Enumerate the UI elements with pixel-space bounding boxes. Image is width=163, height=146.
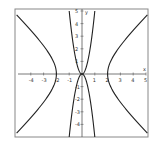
y-tick-label: -4 — [75, 121, 80, 127]
y-tick-label: 2 — [75, 46, 78, 52]
x-tick-label: -4 — [29, 77, 34, 83]
graph: -4-3-2-112345-4-3-2-112345 x y — [0, 0, 163, 146]
y-tick-label: -3 — [75, 109, 80, 115]
y-tick-label: 5 — [75, 8, 78, 14]
x-tick-label: -1 — [67, 77, 72, 83]
y-axis-label: y — [85, 9, 88, 16]
plot-frame — [15, 9, 148, 137]
y-tick-label: -2 — [75, 96, 80, 102]
y-tick-label: 4 — [75, 21, 78, 27]
y-tick-label: 3 — [75, 33, 78, 39]
x-tick-label: 3 — [118, 77, 121, 83]
x-tick-label: 4 — [131, 77, 134, 83]
x-tick-label: 1 — [93, 77, 96, 83]
x-tick-label: 5 — [144, 77, 147, 83]
x-tick-label: -3 — [42, 77, 47, 83]
x-axis-label: x — [143, 66, 146, 72]
